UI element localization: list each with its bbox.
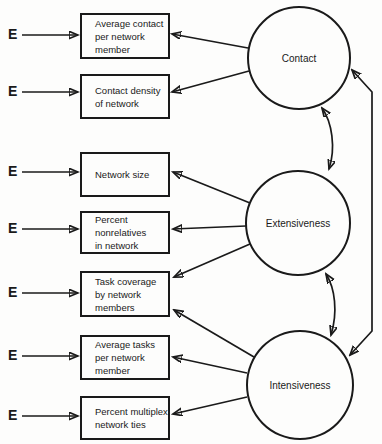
box-percent-multiplex: Percent multiplex network ties (80, 396, 170, 440)
circle-contact-label: Contact (282, 53, 316, 64)
arrow-corr-extensiveness-intensiveness (326, 274, 335, 335)
box-task-coverage: Task coverage by network members (80, 271, 170, 317)
arrow-intensiveness-to-multiplex (173, 397, 247, 414)
arrow-intensiveness-to-average-tasks (173, 357, 247, 373)
error-term-6: E (8, 348, 18, 362)
box-average-tasks: Average tasks per network member (80, 335, 170, 380)
error-term-3: E (8, 164, 18, 178)
error-term-1: E (8, 27, 18, 41)
box-percent-nonrelatives: Percent nonrelatives in network (80, 211, 170, 254)
error-term-4: E (8, 221, 18, 235)
box-percent-multiplex-label: Percent multiplex network ties (82, 405, 168, 431)
box-contact-density-label: Contact density of network (82, 84, 160, 110)
arrow-corr-contact-extensiveness (322, 108, 333, 169)
arrow-corr-contact-intensiveness (350, 70, 372, 355)
box-task-coverage-label: Task coverage by network members (82, 275, 156, 314)
box-average-contact: Average contact per network member (80, 13, 170, 59)
box-percent-nonrelatives-label: Percent nonrelatives in network (82, 213, 146, 252)
box-network-size-label: Network size (82, 168, 149, 181)
circle-intensiveness: Intensiveness (246, 330, 354, 440)
box-average-contact-label: Average contact per network member (82, 17, 163, 56)
arrow-extensiveness-to-nonrelatives (173, 226, 246, 229)
arrow-extensiveness-to-task-coverage (174, 244, 250, 277)
box-contact-density: Contact density of network (80, 74, 170, 119)
arrow-contact-to-contact-density (172, 71, 249, 92)
path-diagram: E E E E E E E Average contact per networ… (0, 0, 382, 444)
error-term-7: E (8, 408, 18, 422)
circle-contact: Contact (247, 6, 351, 110)
arrow-contact-to-average-contact (172, 34, 248, 48)
box-network-size: Network size (80, 152, 170, 197)
error-term-2: E (8, 84, 18, 98)
box-average-tasks-label: Average tasks per network member (82, 338, 155, 377)
arrow-intensiveness-to-task-coverage (174, 310, 254, 357)
circle-extensiveness: Extensiveness (245, 170, 351, 276)
circle-intensiveness-label: Intensiveness (269, 380, 330, 391)
error-term-5: E (8, 285, 18, 299)
arrow-extensiveness-to-network-size (173, 172, 250, 203)
circle-extensiveness-label: Extensiveness (266, 218, 330, 229)
